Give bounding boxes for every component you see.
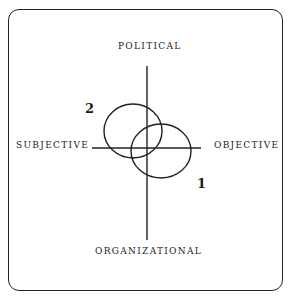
circle-2-label: 2 — [85, 102, 94, 115]
axis-label-subjective: SUBJECTIVE — [16, 141, 89, 150]
circle-1-label: 1 — [197, 177, 206, 190]
axis-label-objective: OBJECTIVE — [214, 141, 279, 150]
circle-2 — [104, 104, 162, 158]
circle-1 — [131, 124, 191, 178]
axis-label-political: POLITICAL — [118, 42, 182, 51]
axis-label-organizational: ORGANIZATIONAL — [95, 247, 202, 256]
